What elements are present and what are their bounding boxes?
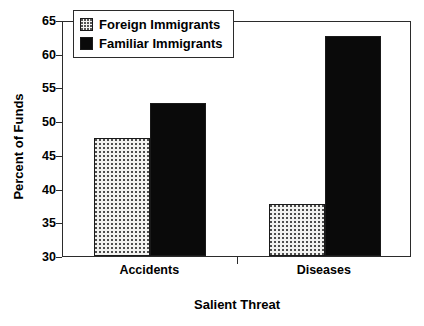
legend-item-foreign: Foreign Immigrants xyxy=(80,15,223,34)
y-tick-label: 65 xyxy=(16,15,56,28)
bar-familiar-diseases xyxy=(325,36,381,256)
bar-foreign-accidents xyxy=(94,138,150,256)
y-tick-mark xyxy=(56,257,62,258)
y-tick-label: 30 xyxy=(16,251,56,264)
y-tick-label: 40 xyxy=(16,183,56,196)
y-tick-label: 55 xyxy=(16,82,56,95)
y-tick-label: 45 xyxy=(16,150,56,163)
y-tick-label: 35 xyxy=(16,217,56,230)
legend-label-familiar: Familiar Immigrants xyxy=(99,37,223,50)
x-tick-label-accidents: Accidents xyxy=(69,263,229,277)
chart-legend: Foreign Immigrants Familiar Immigrants xyxy=(73,10,234,58)
legend-swatch-foreign-icon xyxy=(80,18,93,31)
bar-chart: Percent of Funds 3035404550556065 Accide… xyxy=(0,0,424,326)
legend-swatch-familiar-icon xyxy=(80,37,93,50)
y-tick-label: 60 xyxy=(16,48,56,61)
bar-familiar-accidents xyxy=(150,103,206,256)
x-tick-mark xyxy=(237,257,238,264)
legend-item-familiar: Familiar Immigrants xyxy=(80,34,223,53)
legend-label-foreign: Foreign Immigrants xyxy=(99,18,220,31)
x-tick-label-diseases: Diseases xyxy=(244,263,404,277)
x-axis-title: Salient Threat xyxy=(62,297,412,312)
bar-foreign-diseases xyxy=(269,204,325,256)
y-tick-label: 50 xyxy=(16,116,56,129)
